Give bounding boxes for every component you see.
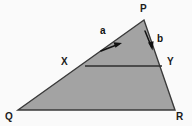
geometry-figure: P Q R X Y a b (0, 0, 192, 126)
vertex-label-q: Q (5, 112, 13, 122)
vertex-label-r: R (176, 112, 183, 122)
vector-label-a: a (100, 26, 106, 36)
triangle-pqr-shape (18, 20, 175, 110)
vertex-label-x: X (61, 57, 68, 67)
vector-label-b: b (157, 34, 163, 44)
triangle-diagram-svg (0, 0, 192, 126)
vertex-label-y: Y (167, 57, 174, 67)
vertex-label-p: P (140, 4, 147, 14)
